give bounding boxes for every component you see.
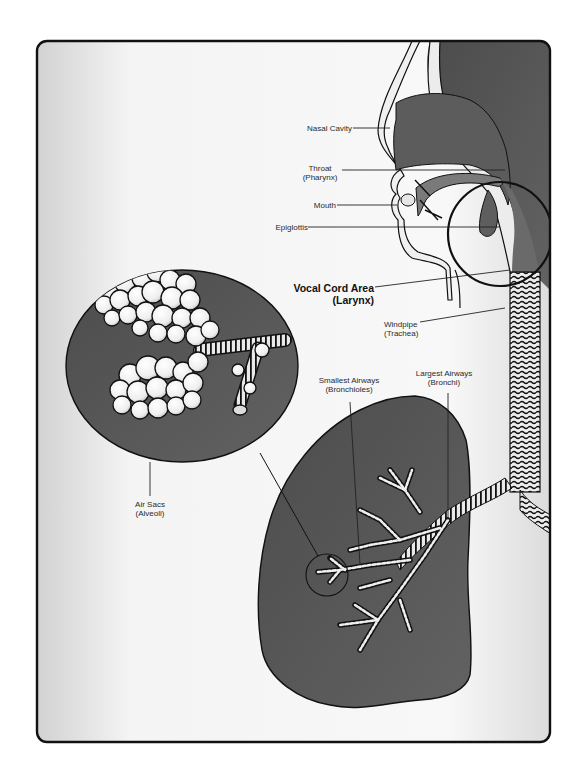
label-text: Epiglottis <box>262 223 308 232</box>
label-text: Smallest Airways <box>308 376 390 385</box>
label-subtext: (Larynx) <box>282 294 374 306</box>
label-text: Nasal Cavity <box>290 124 352 133</box>
label-subtext: (Bronchi) <box>404 378 484 387</box>
label-bronchi: Largest Airways (Bronchi) <box>404 369 484 387</box>
label-larynx: Vocal Cord Area (Larynx) <box>282 282 374 306</box>
label-subtext: (Trachea) <box>384 329 424 338</box>
label-alveoli: Air Sacs (Alveoli) <box>124 500 176 518</box>
label-epiglottis: Epiglottis <box>262 223 308 232</box>
label-text: Vocal Cord Area <box>282 282 374 294</box>
label-subtext: (Bronchioles) <box>308 385 390 394</box>
respiratory-diagram: Nasal Cavity Throat (Pharynx) Mouth Epig… <box>0 0 582 771</box>
label-text: Throat <box>296 164 344 173</box>
label-text: Windpipe <box>384 320 424 329</box>
label-bronchioles: Smallest Airways (Bronchioles) <box>308 376 390 394</box>
label-mouth: Mouth <box>296 201 336 210</box>
label-trachea: Windpipe (Trachea) <box>384 320 424 338</box>
mouth-lip <box>401 194 415 206</box>
label-subtext: (Alveoli) <box>124 509 176 518</box>
label-text: Air Sacs <box>124 500 176 509</box>
label-text: Largest Airways <box>404 369 484 378</box>
label-text: Mouth <box>296 201 336 210</box>
label-throat: Throat (Pharynx) <box>296 164 344 182</box>
label-nasal-cavity: Nasal Cavity <box>290 124 352 133</box>
label-subtext: (Pharynx) <box>296 173 344 182</box>
trachea <box>510 272 540 492</box>
diagram-artwork <box>0 0 582 771</box>
